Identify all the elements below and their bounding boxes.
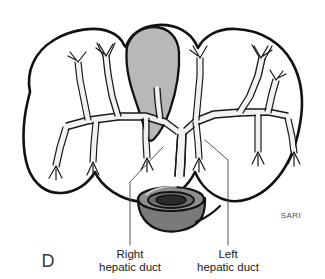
figure-canvas: Right hepatic duct Left hepatic duct D S… [0,0,325,279]
label-right-hepatic-duct-line2: hepatic duct [99,261,162,273]
label-right-hepatic-duct-line1: Right [117,248,145,260]
label-left-hepatic-duct-line1: Left [218,248,238,260]
stump-lumen [156,195,186,205]
panel-letter: D [42,251,55,271]
liver-anatomy-figure: Right hepatic duct Left hepatic duct D S… [0,0,325,279]
artist-signature: SARI [281,211,301,220]
label-left-hepatic-duct-line2: hepatic duct [197,261,260,273]
